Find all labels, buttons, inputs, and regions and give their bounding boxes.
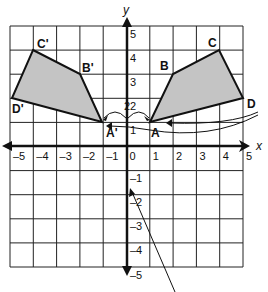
x-tick-label: –4 xyxy=(36,150,48,162)
x-tick-label: –3 xyxy=(60,150,72,162)
y-tick-label: –1 xyxy=(130,172,142,184)
x-tick-label: 4 xyxy=(223,150,229,162)
vertex-label-b: B xyxy=(160,59,169,73)
x-tick-label: 2 xyxy=(176,150,182,162)
y-tick-label: –3 xyxy=(130,220,142,232)
long-arrow-a-head-icon xyxy=(166,119,172,127)
y-tick-label: 5 xyxy=(130,28,136,40)
x-tick-labels: –5–4–3–2–1012345 xyxy=(13,150,252,162)
arc-right-arrowhead-icon xyxy=(144,116,150,121)
x-tick-label: 1 xyxy=(153,150,159,162)
y-tick-label: –2 xyxy=(130,196,142,208)
vertex-label-c: C xyxy=(208,36,217,50)
vertex-label-b-prime: B' xyxy=(82,61,94,75)
x-tick-label: –1 xyxy=(106,150,118,162)
y-tick-label: 3 xyxy=(130,76,136,88)
x-axis-left-arrow-icon xyxy=(2,141,12,151)
distance-arc-right xyxy=(128,112,149,118)
y-tick-label: 4 xyxy=(130,52,136,64)
vertex-label-a: A xyxy=(151,126,160,140)
y-tick-label: –5 xyxy=(130,269,142,281)
distance-arc-left xyxy=(104,112,126,118)
distance-label: 2 xyxy=(124,100,130,112)
vertex-label-a-prime: A' xyxy=(106,126,118,140)
y-tick-label: –4 xyxy=(130,244,142,256)
x-tick-label: 3 xyxy=(199,150,205,162)
x-tick-label: 5 xyxy=(246,150,252,162)
x-axis-label: x xyxy=(255,139,263,153)
x-tick-label: –2 xyxy=(83,150,95,162)
x-tick-label: 0 xyxy=(130,150,136,162)
y-tick-label: 2 xyxy=(130,100,136,112)
y-axis-label: y xyxy=(122,3,130,17)
x-tick-label: –5 xyxy=(13,150,25,162)
coordinate-plane: –5–4–3–2–1012345 54321–1–2–3–4–5 x y A B… xyxy=(0,0,268,292)
y-axis-up-arrow-icon xyxy=(122,17,132,27)
vertex-label-c-prime: C' xyxy=(37,37,49,51)
vertex-label-d-prime: D' xyxy=(12,102,24,116)
y-tick-label: 1 xyxy=(130,124,136,136)
vertex-label-d: D xyxy=(247,97,256,111)
